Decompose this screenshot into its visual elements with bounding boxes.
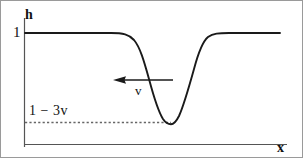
velocity-label: v [135,84,142,97]
y-tick-label-threshold: 1 − 3v [29,104,68,118]
y-axis-label: h [25,8,33,22]
plot-canvas [1,1,303,158]
velocity-arrow-head [113,76,126,84]
figure-container: h 1 1 − 3v v x [0,0,303,158]
y-tick-label-one: 1 [13,25,21,40]
x-axis-label: x [277,141,284,155]
